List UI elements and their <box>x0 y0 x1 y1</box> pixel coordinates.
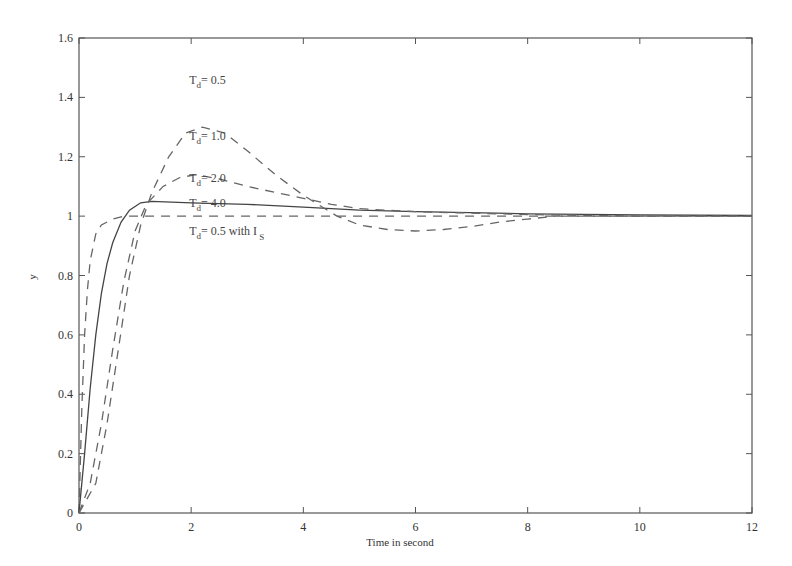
y-tick-label: 1.2 <box>58 150 73 164</box>
y-tick-label: 0.2 <box>58 447 73 461</box>
y-tick-label: 0.6 <box>58 328 73 342</box>
x-axis-label: Time in second <box>366 536 434 548</box>
curve-annotation: Td= 0.5 with I S <box>189 224 264 242</box>
y-tick-label: 0.4 <box>58 387 73 401</box>
curve-annotation: Td= 0.5 <box>189 73 226 90</box>
y-tick-label: 1.6 <box>58 31 73 45</box>
plot-frame <box>79 38 752 513</box>
y-tick-label: 0.8 <box>58 269 73 283</box>
x-tick-label: 8 <box>525 520 531 534</box>
curve-td-1-0 <box>79 127 752 513</box>
x-tick-label: 6 <box>413 520 419 534</box>
curve-td-0-5-with-is <box>79 216 752 513</box>
curve-annotation: Td= 2.0 <box>189 171 226 188</box>
x-tick-label: 0 <box>76 520 82 534</box>
x-tick-label: 4 <box>300 520 306 534</box>
y-tick-label: 0 <box>67 506 73 520</box>
curve-annotation: Td= 1.0 <box>189 129 226 146</box>
plot-axes: 02468101200.20.40.60.811.21.41.6 <box>58 31 758 534</box>
x-tick-label: 2 <box>188 520 194 534</box>
x-tick-label: 12 <box>746 520 758 534</box>
curve-td-4-0 <box>79 201 752 513</box>
y-tick-label: 1 <box>67 209 73 223</box>
step-response-chart: 02468101200.20.40.60.811.21.41.6 Td= 0.5… <box>0 0 792 566</box>
curve-td-2-0 <box>79 175 752 513</box>
y-tick-label: 1.4 <box>58 90 73 104</box>
x-tick-label: 10 <box>634 520 646 534</box>
plot-curves <box>79 127 752 513</box>
y-axis-label: y <box>26 274 38 280</box>
curve-annotation: Td= 4.0 <box>189 196 226 213</box>
